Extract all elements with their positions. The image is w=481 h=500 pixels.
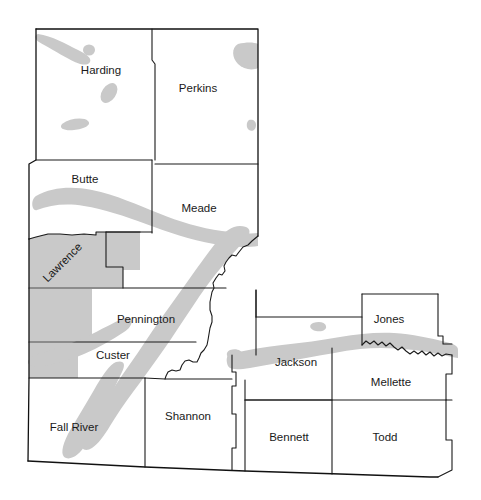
aquifer-blob-perkins-1 <box>233 43 258 70</box>
boundary-harding-perkins <box>152 29 155 160</box>
boundary-northwest-perimeter <box>36 29 258 236</box>
county-label-bennett: Bennett <box>269 431 309 443</box>
boundary-south-perimeter <box>28 461 438 477</box>
county-label-shannon: Shannon <box>165 410 211 422</box>
south-dakota-county-map: Harding Perkins Butte Meade Lawrence Pen… <box>0 0 481 500</box>
aquifer-blob-harding-1 <box>83 45 95 56</box>
boundary-jones-east <box>438 294 452 344</box>
county-label-pennington: Pennington <box>117 313 175 325</box>
aquifer-band-harding-nw <box>35 34 90 65</box>
boundary-jackson-west <box>232 355 236 470</box>
boundary-shannon-north <box>145 378 232 379</box>
county-label-harding: Harding <box>81 64 121 76</box>
aquifer-blob-jackson-top <box>310 322 326 331</box>
county-label-todd: Todd <box>373 431 398 443</box>
county-label-fall-river: Fall River <box>50 421 99 433</box>
aquifer-blob-perkins-2 <box>247 120 256 131</box>
county-label-jones: Jones <box>374 313 405 325</box>
county-label-custer: Custer <box>96 349 130 361</box>
aquifer-blob-harding-2 <box>97 80 121 106</box>
boundary-todd-east <box>438 400 452 477</box>
aquifer-band-jackson-mellette <box>227 333 458 370</box>
pennington-west-shaded-fill <box>29 289 92 341</box>
county-map-container: Harding Perkins Butte Meade Lawrence Pen… <box>0 0 481 500</box>
county-label-mellette: Mellette <box>371 376 411 388</box>
county-label-perkins: Perkins <box>179 82 218 94</box>
boundary-west-edge-lower <box>28 239 29 461</box>
county-label-meade: Meade <box>181 202 216 214</box>
aquifer-blob-harding-3 <box>61 119 89 131</box>
county-label-butte: Butte <box>72 173 99 185</box>
boundary-mellette-east <box>446 355 452 400</box>
county-label-jackson: Jackson <box>275 356 317 368</box>
